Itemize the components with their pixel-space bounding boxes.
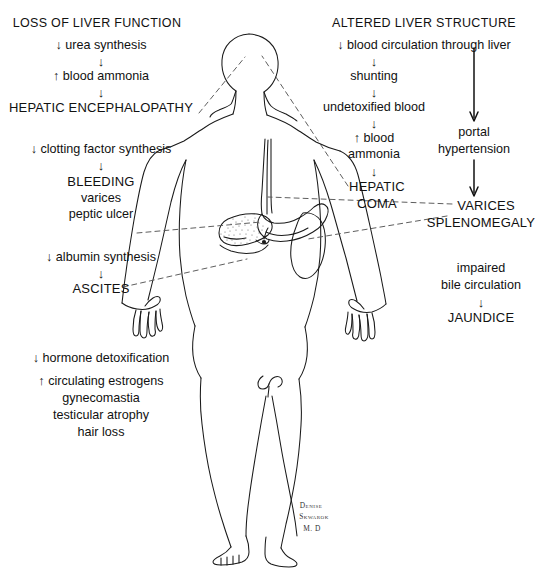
hip-left — [193, 326, 201, 378]
figure-canvas: LOSS OF LIVER FUNCTION ↓ urea synthesis … — [0, 0, 550, 576]
right-step-bile-circulation: bile circulation — [441, 279, 521, 292]
bile-duct — [264, 228, 268, 239]
artist-signature-line3: M. D — [303, 524, 321, 535]
down-arrow-icon: ↓ — [98, 55, 105, 68]
leg-right-inner — [272, 396, 297, 536]
pubic-outline-2 — [269, 377, 282, 387]
down-arrow-icon: ↓ — [98, 267, 105, 280]
artist-signature-line1: Denise — [300, 501, 323, 512]
right-step-hypertension: hypertension — [438, 143, 510, 156]
left-step-clotting-factor: ↓ clotting factor synthesis — [31, 143, 172, 156]
hand-left — [122, 297, 160, 310]
pubic-center — [268, 386, 269, 397]
right-step-portal: portal — [458, 126, 490, 139]
liver-stipple — [220, 216, 263, 243]
left-step-blood-ammonia: ↑ blood ammonia — [53, 70, 149, 83]
right-step-hepatic-coma-2: COMA — [357, 197, 397, 211]
head-outline-right — [249, 34, 297, 121]
left-step-gynecomastia: gynecomastia — [62, 392, 140, 405]
left-step-testicular-atrophy: testicular atrophy — [53, 409, 149, 422]
esophagus-left — [261, 139, 265, 214]
esophagus-right — [271, 139, 272, 213]
hand-right-f3 — [352, 314, 360, 339]
right-step-varices: VARICES — [457, 199, 515, 213]
left-column-heading: LOSS OF LIVER FUNCTION — [13, 17, 181, 30]
hand-right — [349, 300, 386, 313]
hand-right-f2 — [359, 314, 368, 341]
right-step-jaundice: JAUNDICE — [448, 311, 515, 325]
right-step-impaired: impaired — [457, 262, 505, 275]
liver-lobe-split — [224, 237, 246, 239]
hip-right — [299, 327, 307, 379]
arm-right-outer — [340, 151, 386, 304]
duodenum — [220, 245, 268, 253]
left-step-peptic-ulcer: peptic ulcer — [69, 208, 133, 221]
leg-left-inner — [246, 396, 266, 536]
right-step-blood-ammonia-1: ↑ blood — [354, 132, 395, 145]
shoulder-right — [267, 115, 340, 151]
duct-junction — [262, 240, 266, 244]
hand-left-f3 — [148, 311, 156, 336]
left-step-urea-synthesis: ↓ urea synthesis — [56, 39, 147, 52]
torso-right — [305, 160, 321, 327]
hand-left-f2 — [140, 311, 149, 338]
leader-peptic-ulcer — [137, 222, 261, 233]
leader-hepatic-coma — [262, 56, 348, 186]
down-arrow-icon: ↓ — [371, 165, 378, 178]
left-step-varices: varices — [81, 192, 121, 205]
right-step-splenomegaly: SPLENOMEGALY — [427, 216, 535, 230]
down-arrow-icon: ↓ — [98, 159, 105, 172]
artist-signature-line2: Skwarok — [299, 512, 329, 523]
right-step-shunting: shunting — [350, 70, 398, 83]
left-step-hepatic-encephalopathy: HEPATIC ENCEPHALOPATHY — [9, 101, 193, 115]
left-step-hormone-detox: ↓ hormone detoxification — [33, 352, 170, 365]
left-step-bleeding: BLEEDING — [67, 175, 134, 189]
left-step-circulating-estrogens: ↑ circulating estrogens — [38, 375, 163, 388]
left-step-ascites: ASCITES — [72, 282, 129, 296]
right-step-blood-circulation: ↓ blood circulation through liver — [337, 39, 511, 52]
pubic-outline — [258, 376, 269, 389]
hand-right-f4 — [345, 312, 352, 334]
torso-left — [179, 160, 195, 326]
right-step-undetoxified-blood: undetoxified blood — [323, 101, 425, 114]
leg-left-outer — [200, 378, 231, 547]
down-arrow-icon: ↓ — [371, 117, 378, 130]
flow-arrows — [470, 48, 478, 196]
down-arrow-icon: ↓ — [371, 55, 378, 68]
left-step-hair-loss: hair loss — [78, 426, 125, 439]
foot-right — [265, 537, 297, 567]
right-column-heading: ALTERED LIVER STRUCTURE — [332, 17, 516, 30]
down-arrow-icon: ↓ — [98, 86, 105, 99]
foot-left — [213, 536, 249, 565]
hand-left-f4 — [156, 309, 163, 331]
down-arrow-icon: ↓ — [478, 296, 485, 309]
right-step-hepatic-coma-1: HEPATIC — [349, 180, 405, 194]
down-arrow-icon: ↓ — [371, 86, 378, 99]
right-step-blood-ammonia-2: ammonia — [348, 148, 400, 161]
left-step-albumin-synthesis: ↓ albumin synthesis — [46, 251, 156, 264]
esophagus-inner — [267, 140, 268, 214]
